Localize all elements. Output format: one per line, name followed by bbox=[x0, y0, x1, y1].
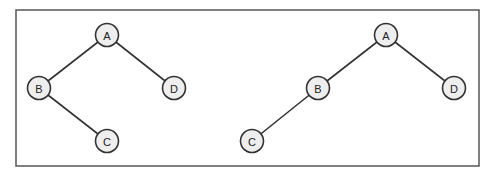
edge-b-c bbox=[252, 88, 318, 141]
node-label: B bbox=[35, 83, 42, 95]
node-a: A bbox=[96, 24, 119, 47]
edge-a-b bbox=[318, 35, 386, 88]
node-label: D bbox=[170, 83, 178, 95]
node-label: A bbox=[103, 30, 111, 42]
node-label: B bbox=[314, 83, 321, 95]
node-a: A bbox=[375, 24, 398, 47]
node-label: D bbox=[450, 83, 458, 95]
node-d: D bbox=[443, 77, 466, 100]
node-d: D bbox=[163, 77, 186, 100]
edge-a-d bbox=[107, 35, 174, 88]
node-label: C bbox=[248, 136, 256, 148]
edge-a-d bbox=[386, 35, 454, 88]
edge-b-c bbox=[39, 88, 107, 141]
tree-right: ABDC bbox=[241, 24, 466, 153]
binary-tree-diagram: ABDCABDC bbox=[0, 0, 493, 175]
node-b: B bbox=[28, 77, 51, 100]
node-c: C bbox=[96, 130, 119, 153]
tree-left: ABDC bbox=[28, 24, 186, 153]
edge-a-b bbox=[39, 35, 107, 88]
node-label: C bbox=[103, 136, 111, 148]
node-c: C bbox=[241, 130, 264, 153]
node-label: A bbox=[382, 30, 390, 42]
node-b: B bbox=[307, 77, 330, 100]
